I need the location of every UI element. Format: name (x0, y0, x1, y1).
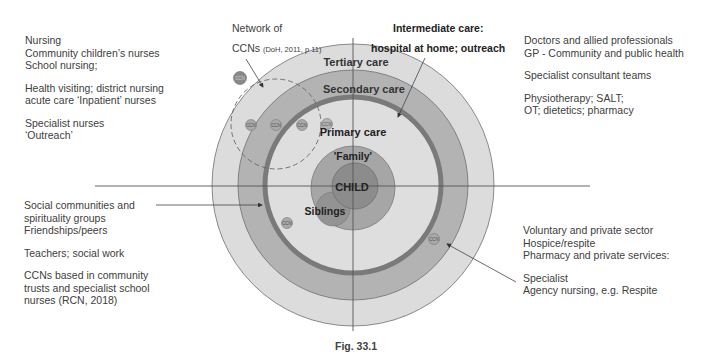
rt-line-6: OT; dietetics; pharmacy (524, 104, 684, 117)
rt-line-1: GP - Community and public health (524, 47, 684, 60)
network-arrow (246, 59, 263, 87)
lt-gap (25, 72, 164, 82)
left-bottom-text-block: Social communities and spirituality grou… (24, 199, 149, 307)
intermediate-care-label: Intermediate care: hospital at home; out… (388, 18, 505, 58)
lt-line-1: Community children’s nurses (25, 47, 164, 60)
intermediate-label-line2: hospital at home; outreach (371, 38, 505, 58)
rb-line-5: Agency nursing, e.g. Respite (523, 284, 669, 297)
lb-line-1: spirituality groups (24, 212, 149, 225)
ccn-marker-primary-boundary: CCN (282, 218, 293, 229)
lb-gap (24, 259, 149, 269)
svg-text:CCN: CCN (235, 76, 245, 81)
rt-gap (524, 82, 684, 92)
lt-line-8: ‘Outreach’ (25, 129, 164, 142)
rb-line-2: Pharmacy and private services: (523, 249, 669, 262)
network-label-line1: Network of (232, 18, 321, 38)
lt-line-4: Health visiting; district nursing (25, 82, 164, 95)
right-bottom-text-block: Voluntary and private sector Hospice/res… (523, 224, 669, 297)
lb-line-7: trusts and specialist school (24, 282, 149, 295)
rt-line-3: Specialist consultant teams (524, 69, 684, 82)
svg-text:CCN: CCN (271, 123, 281, 128)
ccn-marker-network-2: CCN (271, 120, 282, 131)
family-label: 'Family' (334, 150, 372, 162)
ccn-marker-network-1: CCN (246, 120, 257, 131)
ccn-marker-network-3: CCN (297, 120, 308, 131)
rb-line-0: Voluntary and private sector (523, 224, 669, 237)
lb-line-8: nurses (RCN, 2018) (24, 294, 149, 307)
right-top-text-block: Doctors and allied professionals GP - Co… (524, 34, 684, 117)
network-of-ccns-label: Network of CCNs (DoH, 2011, p 11) (232, 18, 321, 60)
rt-line-5: Physiotherapy; SALT; (524, 92, 684, 105)
rb-line-4: Specialist (523, 272, 669, 285)
svg-text:CCN: CCN (282, 221, 292, 226)
lb-line-0: Social communities and (24, 199, 149, 212)
svg-text:CCN: CCN (246, 123, 256, 128)
ccn-marker-outside: CCN (234, 72, 247, 85)
left-top-text-block: Nursing Community children’s nurses Scho… (25, 34, 164, 142)
primary-care-label: Primary care (320, 126, 387, 138)
rt-gap (524, 59, 684, 69)
network-label-reference: (DoH, 2011, p 11) (263, 45, 322, 54)
lb-line-2: Friendships/peers (24, 224, 149, 237)
ccn-marker-secondary: CCN (429, 234, 440, 245)
siblings-label: Siblings (305, 205, 346, 217)
lt-line-5: acute care ‘Inpatient’ nurses (25, 94, 164, 107)
rb-line-1: Hospice/respite (523, 237, 669, 250)
child-label: CHILD (335, 181, 369, 193)
intermediate-label-line1: Intermediate care: (388, 18, 505, 38)
rb-gap (523, 262, 669, 272)
svg-text:CCN: CCN (429, 237, 439, 242)
lb-line-6: CCNs based in community (24, 269, 149, 282)
secondary-care-label: Secondary care (323, 83, 405, 95)
lt-line-2: School nursing; (25, 59, 164, 72)
network-label-ccns: CCNs (232, 42, 260, 54)
lt-line-7: Specialist nurses (25, 117, 164, 130)
network-label-line2: CCNs (DoH, 2011, p 11) (232, 38, 321, 60)
figure-caption: Fig. 33.1 (335, 340, 377, 352)
lt-gap (25, 107, 164, 117)
lt-line-0: Nursing (25, 34, 164, 47)
lb-gap (24, 237, 149, 247)
rt-line-0: Doctors and allied professionals (524, 34, 684, 47)
lb-line-4: Teachers; social work (24, 247, 149, 260)
svg-text:CCN: CCN (297, 123, 307, 128)
